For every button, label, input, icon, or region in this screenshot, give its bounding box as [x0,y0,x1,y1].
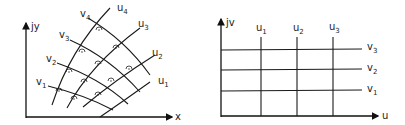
v3-label: v3 [367,41,377,55]
right-angle-icon [66,69,72,73]
u4-curve [52,8,110,105]
conformal-mapping-figure: jy x u1 u2 u3 u4 v1 v2 v3 v4 [0,0,405,125]
u-axis-label: u [382,110,388,121]
u3-curve [67,28,140,108]
v1-label: v1 [36,76,46,90]
u1-label: u1 [158,75,169,89]
right-diagram: jv u u1 u2 u3 v3 v2 v1 [221,17,388,121]
v1-label: v1 [367,83,377,97]
v1-line [221,90,362,91]
v3-line [221,49,362,50]
v2-label: v2 [46,53,56,67]
y-axis-label: jy [30,21,40,32]
u1-label: u1 [256,22,267,36]
v-axis-label: jv [225,17,235,28]
v2-label: v2 [367,62,377,76]
right-angle-icon [96,27,102,31]
u2-curve [83,55,155,107]
right-angle-icon [79,49,85,53]
v2-line [221,69,362,70]
right-angle-icon [126,66,132,70]
right-angle-icon [108,78,114,82]
u4-label: u4 [117,2,128,16]
horizontal-grid-lines [221,49,362,91]
left-diagram: jy x u1 u2 u3 u4 v1 v2 v3 v4 [26,2,181,122]
u2-label: u2 [152,47,163,61]
u3-label: u3 [138,18,149,32]
v4-label: v4 [80,8,91,22]
horizontal-line-labels: v3 v2 v1 [367,41,377,97]
x-axis-label: x [175,111,181,122]
u2-label: u2 [293,22,304,36]
v3-label: v3 [59,29,69,43]
u3-label: u3 [329,21,340,35]
vertical-line-labels: u1 u2 u3 [256,21,340,36]
